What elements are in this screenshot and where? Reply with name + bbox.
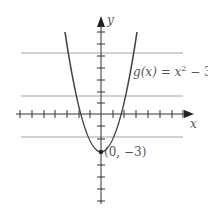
- function-graph: [0, 0, 208, 222]
- x-axis-label: x: [190, 117, 197, 131]
- function-equals: =: [157, 65, 175, 79]
- vertex-point: [99, 150, 103, 154]
- y-axis-label: y: [107, 13, 114, 27]
- y-axis-arrow-icon: [97, 16, 105, 27]
- vertex-label: (0, −3): [104, 145, 146, 159]
- function-rest: − 3: [186, 65, 208, 79]
- function-name: g(x): [133, 65, 157, 79]
- function-label: g(x) = x2 − 3: [133, 64, 208, 79]
